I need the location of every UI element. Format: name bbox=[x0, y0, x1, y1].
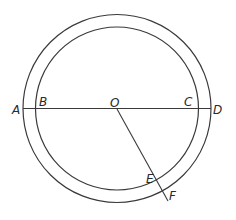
label-A: A bbox=[11, 103, 20, 117]
label-O: O bbox=[110, 96, 119, 110]
geometry-diagram: A B O C D E F bbox=[0, 0, 236, 220]
label-E: E bbox=[146, 172, 154, 186]
label-F: F bbox=[169, 189, 177, 203]
label-C: C bbox=[184, 95, 193, 109]
radius-line-OF bbox=[117, 109, 168, 201]
label-B: B bbox=[39, 95, 47, 109]
label-D: D bbox=[213, 103, 222, 117]
